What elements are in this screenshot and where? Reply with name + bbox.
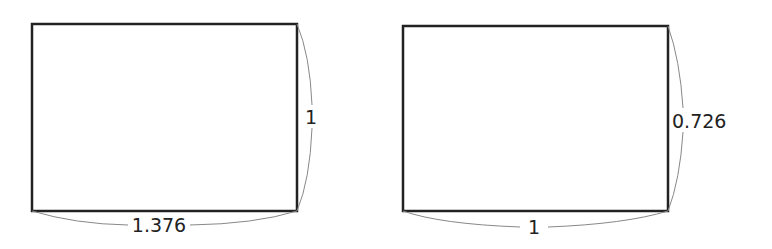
left-width-label: 1.376	[132, 214, 186, 236]
left-rectangle	[32, 24, 297, 211]
right-width-label: 1	[528, 216, 540, 238]
left-rectangle-group: 1.376 1	[32, 24, 317, 236]
right-rectangle-group: 1 0.726	[403, 26, 726, 238]
left-height-label: 1	[305, 106, 317, 128]
aspect-ratio-diagram: 1.376 1 1 0.726	[0, 0, 772, 249]
right-rectangle	[403, 26, 668, 211]
right-height-label: 0.726	[672, 110, 726, 132]
